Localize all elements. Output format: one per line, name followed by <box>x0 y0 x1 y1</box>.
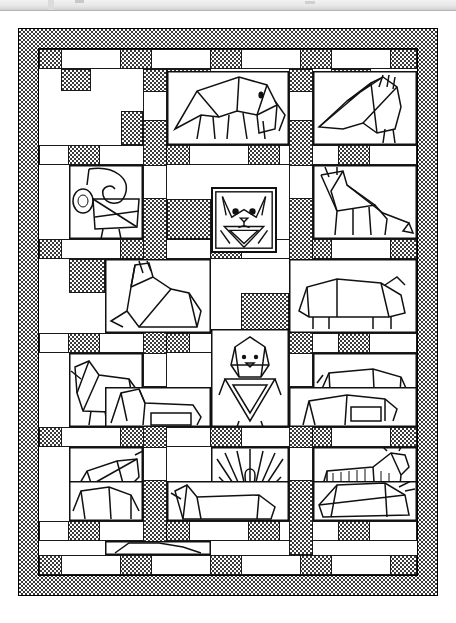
sashing-light-28 <box>61 555 121 575</box>
sashing-node-11 <box>241 293 289 333</box>
sashing-vlight-5 <box>143 447 167 481</box>
sashing-node-10 <box>69 259 105 293</box>
sashing-light-2 <box>151 49 211 69</box>
sashing-vlight-9 <box>289 353 313 387</box>
sashing-light-30 <box>241 555 301 575</box>
quilt-block-dog-running[interactable] <box>167 481 289 521</box>
sashing-node-8 <box>167 199 211 239</box>
quilt-interior-field <box>38 48 418 576</box>
sashing-vlight-1 <box>143 91 167 121</box>
quilt-block-bird[interactable] <box>313 71 417 145</box>
quilt-block-elephant[interactable] <box>167 71 289 145</box>
sashing-node-2 <box>121 111 143 145</box>
sashing-light-31 <box>331 555 391 575</box>
quilt-block-giraffe[interactable] <box>313 165 417 239</box>
sashing-light-3 <box>241 49 301 69</box>
quilt-block-hippo[interactable] <box>289 259 417 333</box>
sashing-vlight-10 <box>289 447 313 481</box>
top-bar-artifact-mid <box>75 0 84 3</box>
sashing-light-23 <box>39 521 69 541</box>
sashing-light-7 <box>189 145 249 165</box>
sashing-vlight-6 <box>289 91 313 121</box>
quilt-block-fox-body[interactable] <box>69 481 143 521</box>
quilt-block-cat[interactable] <box>211 187 277 253</box>
quilt-block-bull[interactable] <box>313 481 417 521</box>
sashing-vlight-2 <box>143 165 167 199</box>
sashing-vlight-4 <box>143 353 167 387</box>
window-top-bar <box>0 0 456 11</box>
figure-canvas: Animal Patchwork Quilt <box>0 11 456 623</box>
sashing-light-14 <box>39 333 69 353</box>
sashing-light-18 <box>369 333 417 353</box>
quilt-block-fox[interactable] <box>105 541 211 555</box>
quilt-block-ostrich[interactable] <box>289 387 417 427</box>
quilt-block-lion[interactable] <box>211 329 289 427</box>
sashing-light-9 <box>369 145 417 165</box>
sashing-light-13 <box>331 239 391 259</box>
sashing-light-1 <box>61 49 121 69</box>
top-bar-artifact-right <box>305 1 315 4</box>
sashing-light-27 <box>369 521 417 541</box>
sashing-light-10 <box>61 239 121 259</box>
sashing-vlight-7 <box>289 165 313 199</box>
quilt-blocks-layer <box>39 49 417 575</box>
quilt-block-kangaroo[interactable] <box>105 259 211 333</box>
sashing-light-4 <box>331 49 391 69</box>
quilt-block-monkey[interactable] <box>69 165 143 239</box>
sashing-light-5 <box>39 145 69 165</box>
sashing-light-25 <box>189 521 249 541</box>
sashing-light-22 <box>331 427 391 447</box>
sashing-light-29 <box>151 555 211 575</box>
sashing-light-19 <box>61 427 121 447</box>
sashing-node-1 <box>61 69 91 91</box>
quilt-block-cow[interactable] <box>105 387 211 427</box>
animal-patchwork-quilt <box>18 28 438 596</box>
